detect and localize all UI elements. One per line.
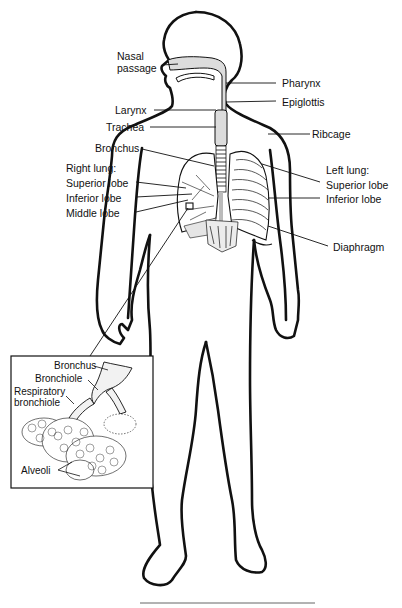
label-nasal-passage: Nasal passage	[117, 50, 157, 74]
inset-label-bronchus: Bronchus	[54, 360, 96, 372]
label-nasal-line1: Nasal	[117, 50, 157, 62]
label-trachea: Trachea	[106, 121, 144, 133]
label-larynx: Larynx	[115, 104, 147, 116]
inset-label-respiratory-line1: Respiratory	[14, 386, 65, 397]
label-left-inferior-lobe: Inferior lobe	[326, 193, 381, 205]
diaphragm	[206, 220, 238, 252]
inset-label-respiratory-bronchiole: Respiratory bronchiole	[14, 386, 65, 408]
label-ribcage: Ribcage	[312, 128, 351, 140]
label-right-lung: Right lung:	[66, 162, 116, 174]
label-left-lung: Left lung:	[326, 164, 369, 176]
respiratory-diagram	[0, 0, 402, 608]
airway	[168, 57, 227, 146]
label-diaphragm: Diaphragm	[333, 241, 384, 253]
label-left-superior-lobe: Superior lobe	[326, 179, 388, 191]
body-outline	[97, 12, 299, 585]
label-right-middle-lobe: Middle lobe	[66, 207, 120, 219]
inset-label-alveoli: Alveoli	[21, 465, 50, 477]
label-right-inferior-lobe: Inferior lobe	[66, 192, 121, 204]
label-bronchus: Bronchus	[95, 142, 139, 154]
inset-label-bronchiole: Bronchiole	[35, 373, 82, 385]
inset-label-respiratory-line2: bronchiole	[14, 397, 65, 408]
label-epiglottis: Epiglottis	[282, 96, 325, 108]
label-nasal-line2: passage	[117, 62, 157, 74]
label-right-superior-lobe: Superior lobe	[66, 177, 128, 189]
label-pharynx: Pharynx	[282, 77, 321, 89]
